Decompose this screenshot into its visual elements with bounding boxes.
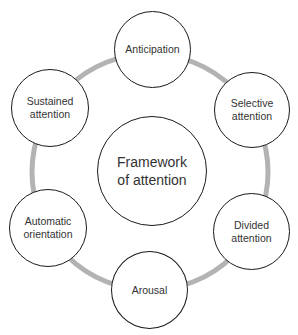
node-label: attention: [232, 110, 272, 122]
node-label: Divided: [234, 219, 269, 231]
node-label: attention: [30, 108, 70, 120]
node-label: Automatic: [25, 215, 72, 227]
node-label: Selective: [231, 97, 274, 109]
node-automatic-orientation: Automaticorientation: [9, 189, 87, 267]
node-selective-attention: Selectiveattention: [214, 72, 290, 148]
node-sustained-attention: Sustainedattention: [11, 69, 89, 147]
node-label: Sustained: [27, 95, 74, 107]
node-arousal: Arousal: [111, 251, 188, 329]
node-label: Anticipation: [125, 43, 179, 55]
center-label-line2: of attention: [117, 172, 186, 188]
node-label: attention: [231, 232, 271, 244]
node-anticipation: Anticipation: [114, 11, 191, 88]
node-label: Arousal: [132, 284, 168, 296]
node-label: orientation: [23, 228, 72, 240]
center-node-framework-of-attention: Frameworkof attention: [97, 116, 207, 226]
node-divided-attention: Dividedattention: [213, 193, 290, 270]
center-label-line1: Framework: [117, 154, 187, 170]
